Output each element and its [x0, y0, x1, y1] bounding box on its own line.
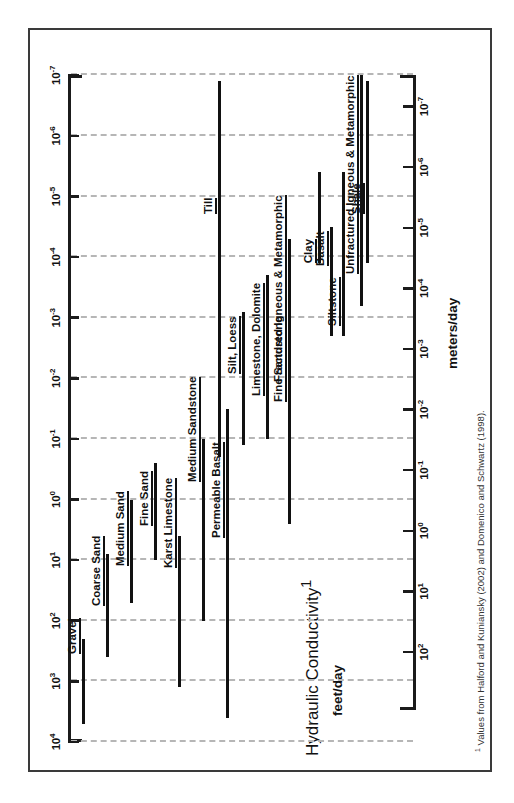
- meters-tick-label: 10-1: [416, 461, 430, 480]
- range-bar-label: Siltstone: [326, 277, 341, 326]
- title-superscript: 1: [298, 580, 314, 588]
- meters-tick-mark: [403, 287, 414, 290]
- range-bar-label: Medium Sandstone: [186, 377, 201, 482]
- left-axis-title: feet/day: [330, 665, 345, 716]
- gridline: [71, 619, 413, 621]
- range-bar-label: Gravel: [66, 618, 81, 654]
- feet-tick-mark: [68, 74, 79, 77]
- range-bar-label: Silt, Loess: [226, 316, 241, 374]
- meters-tick-mark: [403, 348, 414, 351]
- meters-tick-mark: [403, 166, 414, 169]
- feet-tick-mark: [68, 498, 79, 501]
- feet-tick-label: 10-6: [48, 126, 62, 145]
- meters-tick-mark: [403, 227, 414, 230]
- range-bar: [106, 554, 109, 657]
- range-bar: [330, 227, 333, 336]
- meters-tick-mark: [403, 469, 414, 472]
- figure-frame: Hydraulic Conductivity1 feet/day meters/…: [28, 28, 492, 772]
- feet-tick-label: 10-3: [48, 308, 62, 327]
- range-bar: [242, 312, 245, 445]
- feet-tick-label: 102: [48, 612, 62, 629]
- range-bar: [154, 463, 157, 560]
- feet-tick-mark: [68, 317, 79, 320]
- gridline: [71, 679, 413, 681]
- feet-tick-mark: [68, 195, 79, 198]
- footnote: 1 Values from Halford and Kuniansky (200…: [474, 410, 486, 752]
- meters-tick-label: 10-6: [416, 158, 430, 177]
- meters-tick-label: 101: [416, 583, 430, 600]
- range-bar-label: Limestone, Dolomite: [250, 283, 265, 396]
- feet-tick-mark: [68, 438, 79, 441]
- feet-tick-mark: [68, 680, 79, 683]
- right-axis-title: meters/day: [445, 298, 460, 369]
- range-bar-label: Coarse Sand: [90, 536, 105, 606]
- meters-tick-label: 10-5: [416, 218, 430, 237]
- meters-tick-label: 10-4: [416, 279, 430, 298]
- range-bar: [130, 500, 133, 603]
- feet-tick-mark: [68, 377, 79, 380]
- meters-axis-start-cap: [400, 707, 416, 710]
- range-bar-label: Basalt: [314, 231, 329, 266]
- meters-tick-label: 10-3: [416, 340, 430, 359]
- meters-tick-mark: [403, 408, 414, 411]
- page-title: Hydraulic Conductivity1: [298, 580, 323, 756]
- range-bar: [288, 239, 291, 524]
- feet-tick-label: 101: [48, 552, 62, 569]
- range-bar-label: Fine Sand: [138, 471, 153, 526]
- feet-tick-label: 100: [48, 491, 62, 508]
- footnote-text: Values from Halford and Kuniansky (2002)…: [475, 410, 486, 745]
- range-bar: [226, 409, 229, 718]
- meters-tick-mark: [403, 105, 414, 108]
- range-bar: [360, 75, 363, 305]
- chart-plot-area: Hydraulic Conductivity1 feet/day meters/…: [30, 30, 494, 774]
- range-bar-label: Karst Limestone: [162, 478, 177, 568]
- range-bar-label: Till: [202, 198, 217, 214]
- feet-tick-mark: [68, 135, 79, 138]
- meters-tick-mark: [403, 590, 414, 593]
- rotated-chart-canvas: Hydraulic Conductivity1 feet/day meters/…: [30, 30, 494, 774]
- page-title-text: Hydraulic Conductivity: [303, 588, 322, 756]
- meters-tick-mark: [403, 651, 414, 654]
- meters-tick-label: 102: [416, 644, 430, 661]
- meters-tick-label: 10-7: [416, 97, 430, 116]
- right-axis-title-text: meters/day: [445, 298, 460, 369]
- range-bar: [178, 536, 181, 688]
- feet-tick-label: 10-4: [48, 248, 62, 267]
- feet-tick-label: 10-1: [48, 429, 62, 448]
- range-bar: [266, 275, 269, 439]
- range-bar-label: Fractured Igneous & Metamorphic: [272, 195, 287, 382]
- range-bar: [218, 81, 221, 457]
- left-axis-title-text: feet/day: [330, 665, 345, 716]
- feet-tick-label: 10-5: [48, 187, 62, 206]
- range-bar-label: Permeable Basalt: [210, 442, 225, 538]
- range-bar-label: Medium Sand: [114, 491, 129, 566]
- feet-tick-label: 10-7: [48, 66, 62, 85]
- range-bar: [82, 639, 85, 724]
- footnote-marker: 1: [474, 748, 481, 752]
- range-bar: [202, 439, 205, 621]
- meters-axis-end-cap: [400, 75, 416, 78]
- meters-tick-mark: [403, 530, 414, 533]
- feet-tick-label: 10-2: [48, 369, 62, 388]
- meters-tick-label: 10-2: [416, 400, 430, 419]
- feet-tick-label: 103: [48, 673, 62, 690]
- feet-tick-mark: [68, 741, 79, 744]
- feet-tick-mark: [68, 559, 79, 562]
- range-bar-label: Unfractured Igneous & Metamorphic: [344, 75, 359, 274]
- feet-tick-label: 104: [48, 734, 62, 751]
- meters-tick-label: 100: [416, 523, 430, 540]
- feet-tick-mark: [68, 256, 79, 259]
- gridline: [71, 740, 413, 742]
- range-bar: [366, 81, 369, 263]
